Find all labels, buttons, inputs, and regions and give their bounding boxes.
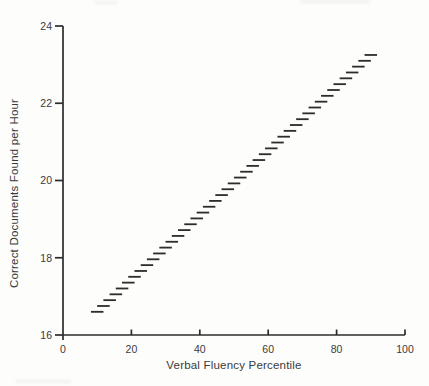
data-dash [190, 218, 203, 220]
data-dash [91, 311, 104, 313]
x-tick-label: 40 [194, 343, 206, 355]
y-tick-label: 22 [40, 97, 52, 109]
data-dash [215, 194, 228, 196]
y-tick-label: 16 [40, 329, 52, 341]
data-dash [290, 124, 303, 126]
y-tick-label: 24 [40, 20, 52, 32]
data-dash [234, 177, 247, 179]
data-dash [159, 247, 172, 249]
y-tick-label: 18 [40, 252, 52, 264]
data-dash [259, 153, 272, 155]
data-dash [203, 206, 216, 208]
x-tick-label: 60 [262, 343, 274, 355]
data-dash [315, 101, 328, 103]
data-dash [97, 305, 110, 307]
data-dash [184, 223, 197, 225]
data-dash [253, 159, 266, 161]
expectancy-chart-figure: 1618202224020406080100Verbal Fluency Per… [0, 0, 429, 386]
data-dash [340, 77, 353, 79]
data-dash [365, 54, 378, 56]
y-tick-label: 20 [40, 174, 52, 186]
data-dash [309, 107, 322, 109]
data-dash [172, 235, 185, 237]
data-dash [122, 282, 135, 284]
data-dash [358, 60, 371, 62]
data-dash [166, 241, 179, 243]
data-series-group [91, 54, 377, 313]
x-tick-label: 0 [60, 343, 66, 355]
data-dash [240, 171, 253, 173]
data-dash [277, 136, 290, 138]
data-dash [128, 276, 141, 278]
data-dash [103, 299, 116, 301]
x-tick-label: 80 [331, 343, 343, 355]
data-dash [110, 293, 123, 295]
data-dash [178, 229, 191, 231]
data-dash [302, 112, 315, 114]
data-dash [209, 200, 222, 202]
data-dash [222, 188, 235, 190]
data-dash [346, 72, 359, 74]
x-tick-label: 20 [126, 343, 138, 355]
data-dash [134, 270, 147, 272]
x-axis-title: Verbal Fluency Percentile [166, 359, 301, 371]
data-dash [153, 253, 166, 255]
chart-canvas: 1618202224020406080100Verbal Fluency Per… [0, 0, 429, 386]
data-dash [271, 142, 284, 144]
y-axis-title: Correct Documents Found per Hour [8, 99, 20, 288]
data-dash [246, 165, 259, 167]
data-dash [352, 66, 365, 68]
data-dash [327, 89, 340, 91]
data-dash [116, 288, 129, 290]
data-dash [284, 130, 297, 132]
data-dash [265, 147, 278, 149]
data-dash [321, 95, 334, 97]
data-dash [197, 212, 210, 214]
x-tick-label: 100 [396, 343, 414, 355]
data-dash [296, 118, 309, 120]
data-dash [333, 83, 346, 85]
data-dash [141, 264, 154, 266]
data-dash [228, 182, 241, 184]
data-dash [147, 258, 160, 260]
